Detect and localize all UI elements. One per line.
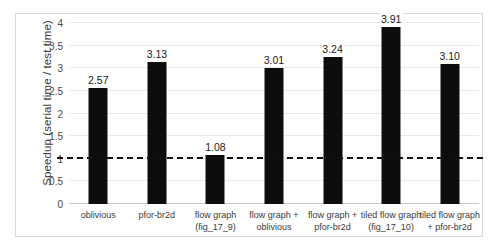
plot-area: 00.511.522.533.54 2.57oblivious3.13pfor-…	[69, 23, 479, 204]
x-category-label: tiled flow graph(fig_17_10)	[359, 209, 423, 233]
y-tick-label: 3	[57, 63, 63, 74]
bar-group: 3.01flow graph +oblivious	[245, 23, 304, 204]
y-tick-label: 2	[57, 108, 63, 119]
bar[interactable]	[323, 57, 342, 204]
bar-value-label: 3.24	[321, 43, 343, 55]
bar-group: 2.57oblivious	[69, 23, 128, 204]
x-category-label-line: pfor-br2d	[125, 209, 189, 221]
x-category-label: flow graph +pfor-br2d	[301, 209, 365, 233]
bar-value-label: 3.13	[146, 48, 168, 60]
bar[interactable]	[206, 155, 225, 204]
x-category-label-line: (fig_17_10)	[359, 221, 423, 233]
bar[interactable]	[440, 64, 459, 204]
x-category-label-line: + pfor-br2d	[418, 221, 482, 233]
bar[interactable]	[147, 62, 166, 204]
bar-value-label: 3.10	[438, 50, 460, 62]
bar-value-label: 3.91	[380, 13, 402, 25]
bar[interactable]	[89, 88, 108, 204]
x-category-label-line: oblivious	[242, 221, 306, 233]
chart-figure: Speedup (serial time / test time) 00.511…	[15, 13, 483, 237]
y-tick-label: 1	[57, 153, 63, 164]
y-tick-label: 3.5	[49, 40, 63, 51]
x-category-label-line: flow graph	[183, 209, 247, 221]
x-category-label-line: oblivious	[66, 209, 130, 221]
y-tick-label: 1.5	[49, 131, 63, 142]
y-axis-title: Speedup (serial time / test time)	[41, 8, 53, 198]
bar-group: 1.08flow graph(fig_17_9)	[186, 23, 245, 204]
bar[interactable]	[264, 68, 283, 204]
x-category-label-line: tiled flow graph	[359, 209, 423, 221]
bar-group: 3.24flow graph +pfor-br2d	[303, 23, 362, 204]
bar-group: 3.13pfor-br2d	[128, 23, 187, 204]
x-category-label-line: flow graph +	[301, 209, 365, 221]
x-category-label: tiled flow graph+ pfor-br2d	[418, 209, 482, 233]
bar-group: 3.91tiled flow graph(fig_17_10)	[362, 23, 421, 204]
bar-value-label: 2.57	[87, 74, 109, 86]
x-category-label-line: flow graph +	[242, 209, 306, 221]
x-category-label: flow graph(fig_17_9)	[183, 209, 247, 233]
bar-group: 3.10tiled flow graph+ pfor-br2d	[420, 23, 479, 204]
x-category-label-line: pfor-br2d	[301, 221, 365, 233]
x-category-label-line: (fig_17_9)	[183, 221, 247, 233]
y-tick-label: 2.5	[49, 85, 63, 96]
x-category-label: oblivious	[66, 209, 130, 221]
x-category-label-line: tiled flow graph	[418, 209, 482, 221]
y-tick-label: 0	[57, 199, 63, 210]
x-category-label: pfor-br2d	[125, 209, 189, 221]
y-tick-label: 0.5	[49, 176, 63, 187]
bar-value-label: 3.01	[263, 54, 285, 66]
x-category-label: flow graph +oblivious	[242, 209, 306, 233]
bar-value-label: 1.08	[204, 141, 226, 153]
reference-line-speedup-1	[57, 157, 483, 159]
y-tick-label: 4	[57, 18, 63, 29]
bar[interactable]	[382, 27, 401, 204]
